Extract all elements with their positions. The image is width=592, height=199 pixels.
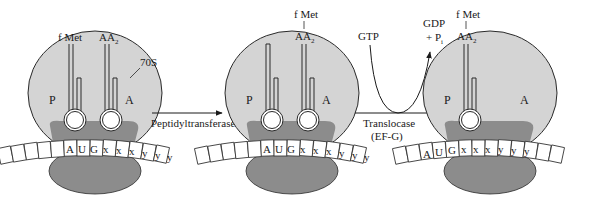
ribosome-panel-2: P A f Met AA2 A U — [194, 8, 370, 194]
ribosome-panel-1: P A f Met AA2 70S A — [0, 31, 173, 194]
dipeptide-fmet: f Met — [456, 8, 480, 20]
peptidyltransferase-step: Peptidyltransferase — [151, 113, 235, 129]
fmet-label: f Met — [58, 31, 82, 43]
svg-text:U: U — [78, 143, 86, 155]
svg-text:x: x — [326, 145, 332, 157]
svg-text:y: y — [498, 143, 504, 155]
svg-text:y: y — [524, 145, 530, 157]
svg-text:G: G — [448, 144, 456, 156]
translation-elongation-diagram: P A f Met AA2 70S A — [0, 0, 592, 199]
site-p-label: P — [246, 93, 253, 107]
pi-label: + Pi — [426, 31, 443, 46]
svg-text:y: y — [352, 149, 358, 161]
dipeptide-fmet: f Met — [294, 8, 318, 20]
site-a-label: A — [520, 93, 529, 107]
svg-text:y: y — [142, 147, 148, 159]
translocase-label: Translocase — [363, 117, 415, 129]
site-a-label: A — [322, 93, 331, 107]
svg-text:A: A — [66, 143, 74, 155]
svg-text:x: x — [116, 144, 122, 156]
svg-text:y: y — [155, 149, 161, 161]
peptidyltransferase-label: Peptidyltransferase — [151, 117, 235, 129]
ef-g-label: (EF-G) — [371, 130, 403, 143]
svg-text:x: x — [129, 145, 135, 157]
ribosome-panel-3: P A f Met AA2 A U — [392, 8, 564, 194]
svg-text:y: y — [167, 151, 173, 163]
svg-text:A: A — [423, 148, 431, 160]
svg-text:G: G — [90, 143, 98, 155]
svg-text:x: x — [103, 143, 109, 155]
svg-text:x: x — [473, 143, 479, 155]
svg-text:A: A — [263, 143, 271, 155]
svg-text:x: x — [300, 143, 306, 155]
gtp-hydrolysis-curve — [370, 45, 430, 113]
svg-text:y: y — [511, 144, 517, 156]
ribosome-70s-label: 70S — [140, 56, 157, 68]
svg-text:U: U — [435, 146, 443, 158]
svg-text:y: y — [339, 147, 345, 159]
site-p-label: P — [49, 93, 56, 107]
site-a-label: A — [125, 93, 134, 107]
svg-text:x: x — [485, 143, 491, 155]
svg-text:x: x — [313, 144, 319, 156]
gdp-label: GDP — [423, 17, 445, 29]
svg-text:y: y — [364, 151, 370, 163]
gtp-label: GTP — [358, 30, 379, 42]
svg-text:x: x — [461, 143, 467, 155]
svg-text:G: G — [287, 143, 295, 155]
site-p-label: P — [444, 93, 451, 107]
svg-text:U: U — [275, 143, 283, 155]
